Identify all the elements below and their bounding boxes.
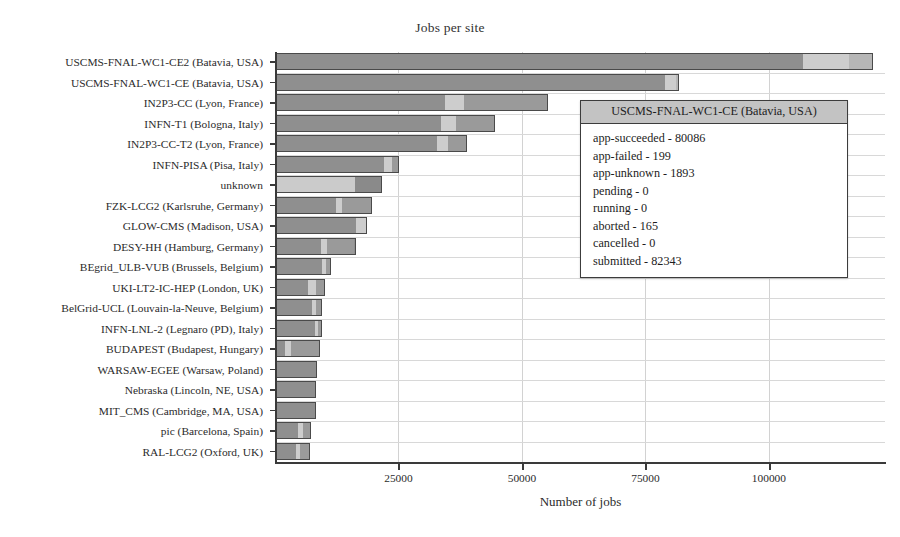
bar[interactable] [275, 135, 467, 152]
chart-title: Jobs per site [0, 20, 900, 36]
bar-segment [327, 239, 354, 254]
chart-row[interactable]: USCMS-FNAL-WC1-CE (Batavia, USA) [275, 73, 885, 93]
bar[interactable] [275, 217, 367, 234]
bar-segment [316, 300, 322, 315]
bar[interactable] [275, 74, 679, 91]
y-axis-label: pic (Barcelona, Spain) [161, 421, 263, 441]
bar[interactable] [275, 94, 548, 111]
bar-segment [316, 280, 324, 295]
bar[interactable] [275, 258, 331, 275]
bar[interactable] [275, 53, 873, 70]
x-axis-tick-label: 50000 [508, 472, 536, 484]
bar[interactable] [275, 361, 317, 378]
bar-segment [441, 116, 456, 131]
x-axis-tick [769, 462, 771, 470]
chart-row[interactable]: WARSAW-EGEE (Warsaw, Poland) [275, 360, 885, 380]
chart-row[interactable]: UKI-LT2-IC-HEP (London, UK) [275, 278, 885, 298]
x-axis-line [275, 462, 886, 464]
bar[interactable] [275, 279, 325, 296]
bar-segment [665, 75, 675, 90]
x-axis-tick-label: 100000 [752, 472, 786, 484]
y-axis-label: USCMS-FNAL-WC1-CE2 (Batavia, USA) [65, 52, 263, 72]
y-axis-label: UKI-LT2-IC-HEP (London, UK) [112, 278, 263, 298]
bar-segment [356, 218, 366, 233]
bar-segment [355, 177, 381, 192]
chart-row[interactable]: USCMS-FNAL-WC1-CE2 (Batavia, USA) [275, 52, 885, 72]
y-axis-label: USCMS-FNAL-WC1-CE (Batavia, USA) [71, 73, 263, 93]
bar-segment [849, 54, 871, 69]
y-axis-label: GLOW-CMS (Madison, USA) [123, 216, 263, 236]
bar[interactable] [275, 238, 356, 255]
bar-segment [308, 280, 316, 295]
tooltip-row: submitted - 82343 [593, 253, 847, 271]
chart-row[interactable]: pic (Barcelona, Spain) [275, 421, 885, 441]
y-axis-label: unknown [221, 175, 263, 195]
tooltip-row: app-unknown - 1893 [593, 165, 847, 183]
tooltip-row: app-succeeded - 80086 [593, 130, 847, 148]
bar-segment [303, 423, 310, 438]
y-axis-label: BUDAPEST (Budapest, Hungary) [106, 339, 263, 359]
bar[interactable] [275, 156, 399, 173]
bar[interactable] [275, 176, 382, 193]
bar[interactable] [275, 197, 372, 214]
bar[interactable] [275, 422, 311, 439]
bar-segment [276, 239, 321, 254]
y-axis-label: RAL-LCG2 (Oxford, UK) [142, 442, 263, 462]
bar-segment [276, 362, 316, 377]
bar-segment [276, 300, 312, 315]
x-axis-tick [398, 462, 400, 470]
bar-segment [276, 341, 285, 356]
bar-segment [384, 157, 391, 172]
chart-row[interactable]: BUDAPEST (Budapest, Hungary) [275, 339, 885, 359]
bar[interactable] [275, 381, 316, 398]
bar-segment [456, 116, 494, 131]
tooltip-row: aborted - 165 [593, 218, 847, 236]
tooltip: USCMS-FNAL-WC1-CE (Batavia, USA) app-suc… [580, 100, 848, 278]
bar[interactable] [275, 320, 322, 337]
x-axis-tick-label: 75000 [631, 472, 659, 484]
chart-row[interactable]: MIT_CMS (Cambridge, MA, USA) [275, 401, 885, 421]
y-axis-label: Nebraska (Lincoln, NE, USA) [125, 380, 263, 400]
y-axis-label: INFN-T1 (Bologna, Italy) [144, 114, 263, 134]
bar-segment [276, 136, 437, 151]
bar-segment [300, 444, 309, 459]
y-axis-label: INFN-PISA (Pisa, Italy) [153, 155, 263, 175]
bar[interactable] [275, 299, 322, 316]
bar-segment [276, 54, 803, 69]
bar-segment [318, 321, 321, 336]
chart-row[interactable]: INFN-LNL-2 (Legnaro (PD), Italy) [275, 319, 885, 339]
y-axis-label: IN2P3-CC (Lyon, France) [144, 93, 263, 113]
y-axis-label: BelGrid-UCL (Louvain-la-Neuve, Belgium) [61, 298, 263, 318]
bar[interactable] [275, 115, 495, 132]
bar-segment [276, 95, 445, 110]
bar-segment [342, 198, 372, 213]
bar-segment [437, 136, 448, 151]
bar-segment [276, 423, 298, 438]
bar-segment [276, 382, 315, 397]
y-axis-line [275, 52, 277, 463]
tooltip-title: USCMS-FNAL-WC1-CE (Batavia, USA) [581, 101, 847, 124]
tooltip-row: cancelled - 0 [593, 235, 847, 253]
bar-segment [276, 321, 315, 336]
bar-segment [276, 198, 336, 213]
chart-row[interactable]: BelGrid-UCL (Louvain-la-Neuve, Belgium) [275, 298, 885, 318]
bar-segment [276, 218, 356, 233]
tooltip-row: app-failed - 199 [593, 148, 847, 166]
chart-page: Jobs per site USCMS-FNAL-WC1-CE2 (Batavi… [0, 0, 900, 537]
y-axis-label: INFN-LNL-2 (Legnaro (PD), Italy) [101, 319, 263, 339]
bar[interactable] [275, 402, 316, 419]
x-axis-tick-label: 25000 [384, 472, 412, 484]
bar-segment [276, 444, 296, 459]
bar-segment [276, 280, 308, 295]
bar-segment [803, 54, 850, 69]
bar-segment [392, 157, 398, 172]
tooltip-row: pending - 0 [593, 183, 847, 201]
bar-segment [276, 403, 315, 418]
bar[interactable] [275, 340, 320, 357]
bar-segment [445, 95, 464, 110]
chart-row[interactable]: RAL-LCG2 (Oxford, UK) [275, 442, 885, 462]
y-axis-label: DESY-HH (Hamburg, Germany) [113, 237, 263, 257]
bar[interactable] [275, 443, 310, 460]
chart-row[interactable]: Nebraska (Lincoln, NE, USA) [275, 380, 885, 400]
y-axis-label: WARSAW-EGEE (Warsaw, Poland) [98, 360, 263, 380]
